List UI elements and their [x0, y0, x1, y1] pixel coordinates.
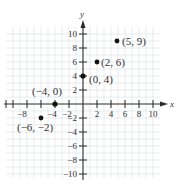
point-labels: (5, 9) (2, 6) (0, 4) (−4, 0) (−6, −2): [17, 35, 146, 134]
y-tick-label: −4: [67, 127, 77, 137]
x-tick-labels: −8 −4 −2 2 4 6 8 10: [17, 109, 158, 119]
point-label: (−6, −2): [17, 121, 54, 134]
y-tick-label: 4: [73, 71, 78, 81]
x-tick-label: 4: [109, 109, 114, 119]
y-tick-label: 10: [68, 29, 78, 39]
x-tick-label: −4: [47, 109, 57, 119]
y-tick-label: 6: [73, 57, 78, 67]
y-tick-label: −2: [67, 113, 77, 123]
x-tick-label: 10: [149, 109, 159, 119]
x-tick-label: 6: [123, 109, 128, 119]
x-tick-label: 8: [137, 109, 142, 119]
point-label: (2, 6): [101, 56, 125, 69]
y-tick-label: 2: [73, 85, 78, 95]
point-label: (−4, 0): [32, 85, 62, 98]
x-axis-label: x: [169, 99, 174, 109]
point-2-6: [95, 60, 100, 65]
y-tick-label: 8: [73, 43, 78, 53]
point-5-9: [115, 39, 120, 44]
point-0-4: [80, 73, 85, 78]
x-tick-label: −8: [17, 109, 27, 119]
coordinate-plane: x y −8 −4 −2 2 4 6 8 10: [0, 0, 177, 190]
y-tick-label: −6: [67, 141, 77, 151]
y-tick-label: −10: [63, 169, 78, 179]
y-axis-arrow-icon: [81, 20, 86, 28]
x-axis-arrow-icon: [160, 102, 168, 107]
point-label: (0, 4): [89, 73, 113, 86]
point-neg4-0: [52, 101, 57, 106]
point-label: (5, 9): [122, 35, 146, 48]
y-tick-label: −8: [67, 155, 77, 165]
x-tick-label: 2: [95, 109, 100, 119]
y-axis-label: y: [79, 9, 84, 19]
point-neg6-neg2: [39, 116, 44, 121]
